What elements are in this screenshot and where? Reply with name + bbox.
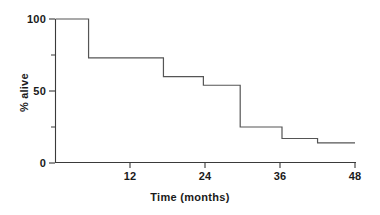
x-tick-label-24: 24 [191, 170, 219, 182]
survival-step-curve [56, 19, 356, 143]
plot-area [0, 0, 380, 215]
x-tick-label-12: 12 [116, 170, 144, 182]
y-axis-title: % alive [18, 73, 30, 112]
y-tick-label-100: 100 [22, 13, 46, 25]
survival-chart: 100 50 0 12 24 36 48 % alive Time (month… [0, 0, 380, 215]
x-axis-title: Time (months) [0, 191, 380, 203]
y-tick-label-0: 0 [22, 157, 46, 169]
x-tick-label-36: 36 [266, 170, 294, 182]
x-tick-label-48: 48 [341, 170, 369, 182]
